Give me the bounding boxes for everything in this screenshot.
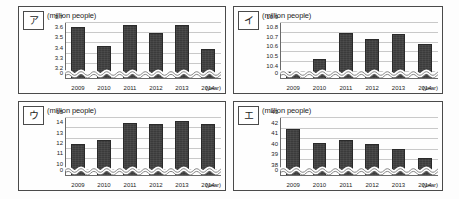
y-axis-tick-label: 10.4 <box>266 63 278 69</box>
x-axis-line <box>65 78 221 79</box>
x-axis-tick-label: 2010 <box>313 85 326 91</box>
bar <box>392 34 406 79</box>
bar <box>392 149 406 176</box>
y-axis-unit-label: (million people) <box>47 106 96 115</box>
y-axis-tick-label: 3.4 <box>55 45 63 51</box>
gridline <box>280 22 438 23</box>
y-axis-tick-label: 0 <box>275 167 278 173</box>
gridline <box>280 149 438 150</box>
y-axis-tick-label: 3.7 <box>55 14 63 20</box>
gridline <box>280 117 438 118</box>
gridline <box>65 42 221 43</box>
y-axis-line <box>280 23 281 79</box>
gridline <box>65 53 221 54</box>
x-axis-tick-label: 2011 <box>339 182 352 188</box>
axis-break-wave <box>65 166 221 175</box>
bar <box>418 44 432 79</box>
gridline <box>65 127 221 128</box>
x-axis-tick-label: 2011 <box>124 182 137 188</box>
x-axis-tick-label: 2012 <box>149 182 162 188</box>
panel-tag-label: ア <box>23 11 44 30</box>
x-axis-title: (year) <box>422 182 438 188</box>
y-axis-line <box>65 118 66 176</box>
x-axis-tick-label: 2010 <box>313 182 326 188</box>
bar <box>149 124 163 176</box>
bar <box>175 121 189 176</box>
x-axis-tick-label: 2012 <box>365 182 378 188</box>
x-axis-tick-label: 2011 <box>339 85 352 91</box>
y-axis-tick-label: 3.6 <box>55 24 63 30</box>
y-axis-tick-label: 10.9 <box>266 14 278 20</box>
x-axis-tick-label: 2011 <box>124 85 137 91</box>
gridline <box>280 170 438 171</box>
gridline <box>65 32 221 33</box>
gridline <box>280 61 438 62</box>
plot-area: 010.410.510.610.710.810.9200920102011201… <box>280 23 438 79</box>
bar <box>313 143 327 176</box>
gridline <box>280 71 438 72</box>
x-axis-title: (year) <box>205 85 221 91</box>
x-axis-tick-label: 2013 <box>392 85 405 91</box>
gridline <box>65 63 221 64</box>
chart-sheet: ア(million people)03.23.33.43.53.63.72009… <box>0 0 459 199</box>
bar <box>149 33 163 79</box>
gridline <box>65 22 221 23</box>
y-axis-tick-label: 42 <box>271 120 278 126</box>
bar <box>339 140 353 176</box>
x-axis-tick-label: 2010 <box>97 85 110 91</box>
bar <box>418 158 432 176</box>
gridline <box>65 73 221 74</box>
chart-panel-3: ウ(million people)01011121314152009201020… <box>18 101 226 191</box>
y-axis-tick-label: 40 <box>271 141 278 147</box>
panel-tag-label: エ <box>238 106 259 125</box>
y-axis-tick-label: 14 <box>56 119 63 125</box>
bar <box>286 129 300 176</box>
y-axis-tick-label: 3.5 <box>55 34 63 40</box>
y-axis-tick-label: 11 <box>57 150 63 156</box>
y-axis-tick-label: 10.5 <box>266 53 278 59</box>
bar <box>201 124 215 176</box>
x-axis-title: (year) <box>422 85 438 91</box>
bar <box>123 25 137 79</box>
y-axis-tick-label: 3.3 <box>55 55 63 61</box>
y-axis-tick-label: 0 <box>60 167 63 173</box>
x-axis-tick-label: 2010 <box>97 182 110 188</box>
x-axis-tick-label: 2009 <box>71 85 84 91</box>
gridline <box>65 148 221 149</box>
chart-panel-4: エ(million people)03839404142432009201020… <box>233 101 443 191</box>
gridline <box>65 169 221 170</box>
y-axis-tick-label: 41 <box>271 130 278 136</box>
y-axis-tick-label: 10.6 <box>266 43 278 49</box>
gridline <box>280 128 438 129</box>
y-axis-tick-label: 15 <box>56 109 63 115</box>
x-axis-tick-label: 2009 <box>71 182 84 188</box>
gridline <box>65 138 221 139</box>
gridline <box>65 158 221 159</box>
x-axis-tick-label: 2013 <box>175 182 188 188</box>
panel-tag-label: ウ <box>23 106 44 125</box>
bar <box>71 144 85 176</box>
bar <box>365 144 379 176</box>
plot-area: 0101112131415200920102011201220132014(ye… <box>65 118 221 176</box>
y-axis-tick-label: 10.8 <box>266 24 278 30</box>
bar <box>175 25 189 79</box>
bar <box>97 46 111 79</box>
chart-panel-2: イ(million people)010.410.510.610.710.810… <box>233 6 443 94</box>
y-axis-tick-label: 43 <box>271 109 278 115</box>
plot-area: 03.23.33.43.53.63.7200920102011201220132… <box>65 23 221 79</box>
bar <box>339 33 353 79</box>
y-axis-tick-label: 3.2 <box>55 65 63 71</box>
y-axis-tick-label: 10.7 <box>266 34 278 40</box>
y-axis-tick-label: 0 <box>275 70 278 76</box>
y-axis-tick-label: 12 <box>56 140 63 146</box>
y-axis-tick-label: 38 <box>271 162 278 168</box>
x-axis-tick-label: 2009 <box>286 182 299 188</box>
y-axis-line <box>280 118 281 176</box>
bar <box>71 27 85 79</box>
x-axis-line <box>280 78 438 79</box>
y-axis-tick-label: 10 <box>56 161 63 167</box>
gridline <box>280 138 438 139</box>
x-axis-tick-label: 2012 <box>149 85 162 91</box>
y-axis-tick-label: 39 <box>271 151 278 157</box>
y-axis-tick-label: 13 <box>56 130 63 136</box>
